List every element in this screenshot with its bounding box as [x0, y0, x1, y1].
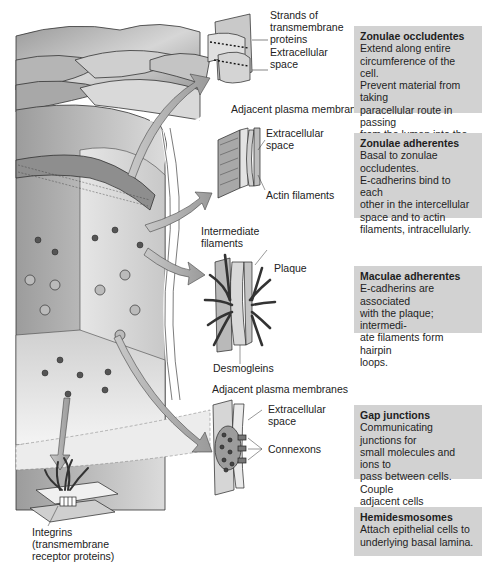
desc-title: Zonulae occludentes: [360, 30, 476, 42]
desc-title: Zonulae adherentes: [360, 137, 476, 149]
tight-junction-inset: [208, 14, 268, 83]
desc-title: Gap junctions: [360, 409, 476, 421]
label-extracellular-space-za: Extracellular space: [266, 127, 324, 151]
desc-box-hemidesmosomes: Hemidesmosomes Attach epithelial cells t…: [354, 507, 482, 556]
desc-box-gap-junctions: Gap junctions Communicating junctions fo…: [354, 405, 482, 479]
desmosome-inset: [205, 250, 275, 364]
desc-text: Attach epithelial cells to underlying ba…: [360, 523, 476, 548]
label-integrins: Integrins (transmembrane receptor protei…: [32, 526, 114, 562]
desc-title: Hemidesmosomes: [360, 511, 476, 523]
cell-junctions-figure: Strands of transmembrane proteins Extrac…: [0, 0, 503, 567]
label-adjacent-membranes-bottom: Adjacent plasma membranes: [212, 383, 348, 395]
label-desmogleins: Desmogleins: [213, 362, 274, 374]
desc-title: Maculae adherentes: [360, 270, 476, 282]
label-plaque: Plaque: [274, 262, 307, 274]
label-actin-filaments: Actin filaments: [266, 189, 334, 201]
desc-box-maculae-adherentes: Maculae adherentes E-cadherins are assoc…: [354, 266, 482, 333]
gap-junction-inset: [213, 400, 262, 495]
label-connexons: Connexons: [268, 443, 321, 455]
label-extracellular-space-tj: Extracellular space: [270, 46, 328, 70]
label-extracellular-space-gj: Extracellular space: [268, 403, 326, 427]
label-adjacent-membranes-top: Adjacent plasma membranes: [231, 103, 367, 115]
label-transmembrane-strands: Strands of transmembrane proteins: [270, 9, 344, 45]
apical-surface: [16, 24, 210, 120]
desc-text: Basal to zonulae occludentes. E-cadherin…: [360, 149, 476, 235]
zonula-adherens-inset: [218, 128, 265, 198]
label-intermediate-filaments: Intermediate filaments: [201, 225, 259, 249]
desc-text: E-cadherins are associated with the plaq…: [360, 282, 476, 368]
desc-box-zonulae-adherentes: Zonulae adherentes Basal to zonulae occl…: [354, 133, 482, 218]
desc-box-zonulae-occludentes: Zonulae occludentes Extend along entire …: [354, 26, 482, 113]
